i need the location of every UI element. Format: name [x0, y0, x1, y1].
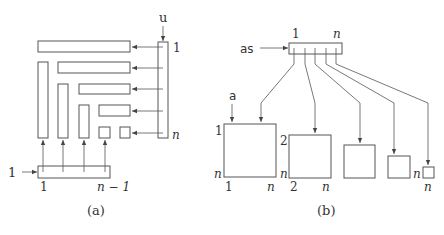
- u-label: u: [159, 10, 167, 25]
- as-left-index: 1: [292, 27, 300, 41]
- array-as: [289, 43, 342, 54]
- as-label: as: [240, 42, 254, 56]
- matrix-2-col-end: n: [322, 180, 330, 194]
- matrix-2-row-end: n: [280, 167, 288, 181]
- col-bar-2: [58, 84, 68, 138]
- a-label: a: [229, 89, 236, 103]
- pointer-line-5: [336, 48, 428, 165]
- row-bar-4: [99, 105, 130, 116]
- diagram-canvas: u 1 n 1 1 n − 1 (a) as 1 n: [0, 0, 444, 235]
- matrix-5-col-end: n: [424, 180, 432, 194]
- row-bar-5: [120, 127, 130, 138]
- u-bottom-index: n: [172, 128, 180, 142]
- matrix-1-col-start: 1: [225, 180, 233, 194]
- vector-u: [158, 42, 168, 138]
- row-bar-3: [79, 84, 130, 94]
- matrix-2-row-start: 2: [280, 134, 288, 148]
- matrix-1-row-start: 1: [215, 124, 223, 138]
- row-bar-1: [38, 41, 130, 52]
- matrix-2-col-start: 2: [290, 180, 298, 194]
- caption-a: (a): [87, 203, 105, 218]
- row-bar-2: [58, 62, 130, 73]
- matrix-4: [388, 156, 410, 178]
- vector-bottom: [38, 166, 110, 178]
- col-bar-1: [38, 62, 48, 138]
- col-bar-4: [99, 127, 110, 138]
- pointer-line-1: [261, 48, 294, 122]
- matrix-2: [289, 135, 331, 178]
- bottom-arrow-label: 1: [8, 165, 16, 180]
- pointer-line-2: [305, 48, 315, 133]
- panel-a: u 1 n 1 1 n − 1 (a): [8, 10, 181, 218]
- bottom-left-index: 1: [40, 180, 48, 194]
- matrix-1-row-end: n: [214, 167, 222, 181]
- matrix-5: [423, 167, 434, 178]
- matrix-1-col-end: n: [267, 180, 275, 194]
- matrix-3: [344, 145, 375, 178]
- caption-b: (b): [317, 203, 335, 218]
- pointer-line-3: [315, 48, 360, 143]
- matrix-1: [224, 124, 276, 177]
- panel-b: as 1 n a 1 n 1 n 2 n 2 n n n (b): [214, 27, 434, 218]
- as-right-index: n: [333, 27, 341, 41]
- matrix-4-row-end: n: [413, 167, 421, 181]
- u-top-index: 1: [173, 41, 181, 55]
- col-bar-3: [79, 105, 89, 138]
- bottom-right-index: n − 1: [97, 180, 130, 194]
